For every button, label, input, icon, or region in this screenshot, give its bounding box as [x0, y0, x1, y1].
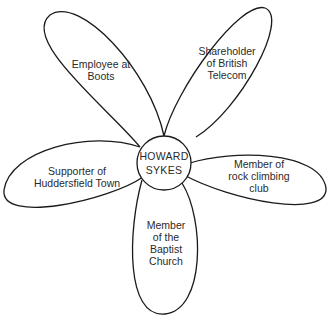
center-label: HOWARD SYKES — [139, 149, 188, 177]
petal-label-left: Supporter of Huddersfield Town — [34, 165, 120, 189]
identity-flower-diagram: HOWARD SYKES Employee at Boots Sharehold… — [0, 0, 328, 317]
petal-label-right: Member of rock climbing club — [228, 158, 289, 194]
petal-label-bottom: Member of the Baptist Church — [147, 219, 186, 267]
petal-label-top-right: Shareholder of British Telecom — [198, 45, 255, 81]
petal-label-top-left: Employee at Boots — [72, 58, 130, 82]
